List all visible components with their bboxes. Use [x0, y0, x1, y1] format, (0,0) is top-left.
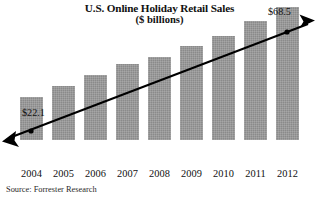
bar-2006 — [84, 75, 107, 140]
chart-container: U.S. Online Holiday Retail Sales ($ bill… — [0, 0, 319, 200]
data-label-start: $22.1 — [22, 107, 45, 118]
bar-2010 — [212, 36, 235, 140]
data-label-end: $68.5 — [268, 6, 291, 17]
x-tick-label-2010: 2010 — [207, 168, 241, 179]
bar-2005 — [52, 86, 75, 140]
bar-2007 — [116, 64, 139, 140]
x-axis: 200420052006200720082009201020112012 — [0, 168, 319, 184]
x-tick-label-2011: 2011 — [239, 168, 273, 179]
bar-2012 — [276, 7, 299, 140]
bar-2004 — [20, 97, 43, 140]
bar-2008 — [148, 57, 171, 140]
plot-area — [0, 0, 319, 172]
x-tick-label-2012: 2012 — [271, 168, 305, 179]
x-tick-label-2007: 2007 — [111, 168, 145, 179]
bar-2009 — [180, 46, 203, 140]
x-tick-label-2008: 2008 — [143, 168, 177, 179]
bar-2011 — [244, 21, 267, 140]
x-tick-label-2006: 2006 — [79, 168, 113, 179]
x-tick-label-2004: 2004 — [15, 168, 49, 179]
x-tick-label-2005: 2005 — [47, 168, 81, 179]
x-tick-label-2009: 2009 — [175, 168, 209, 179]
source-note: Source: Forrester Research — [6, 185, 97, 194]
